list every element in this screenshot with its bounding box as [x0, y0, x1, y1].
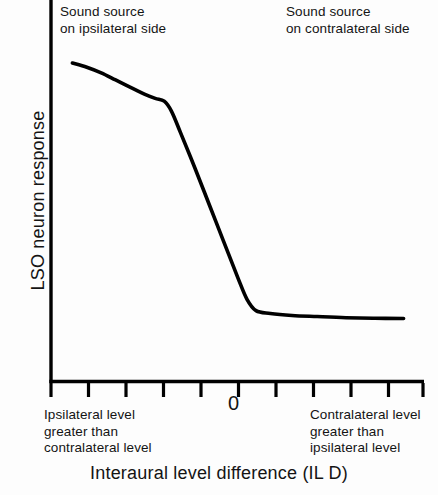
lso-response-figure: Sound source on ipsilateral side Sound s…: [0, 0, 438, 495]
response-curve: [72, 63, 403, 319]
right-axis-note: Contralateral level greater than ipsilat…: [310, 407, 421, 457]
axes: [49, 0, 424, 383]
left-axis-note: Ipsilateral level greater than contralat…: [44, 407, 152, 457]
x-axis-label: Interaural level difference (IL D): [0, 463, 438, 484]
zero-tick-label: 0: [228, 392, 239, 415]
